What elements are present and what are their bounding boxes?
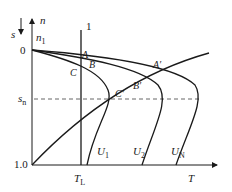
sn-label: sn xyxy=(18,92,26,107)
point-c-prime-label: C′ xyxy=(115,88,125,99)
tl-label: TL xyxy=(74,172,85,187)
torque-speed-diagram: s n n1 0 T 1.0 sn 1 TL A B C A′ B′ C′ U1… xyxy=(0,0,232,192)
u1-label: U1 xyxy=(97,145,109,160)
load-line-label: 1 xyxy=(86,20,92,32)
one-label: 1.0 xyxy=(14,158,28,170)
point-b-label: B xyxy=(89,59,95,70)
point-a-prime-label: A′ xyxy=(152,59,162,70)
point-b-prime-label: B′ xyxy=(133,80,142,91)
point-a-label: A xyxy=(81,49,89,60)
origin-label: 0 xyxy=(20,44,26,56)
n-axis-label: n xyxy=(40,14,46,26)
s-axis-label: s xyxy=(11,28,15,40)
n1-label: n1 xyxy=(36,31,46,46)
t-axis-label: T xyxy=(188,172,195,184)
u2-label: U2 xyxy=(133,145,145,160)
point-c-label: C xyxy=(70,67,77,78)
